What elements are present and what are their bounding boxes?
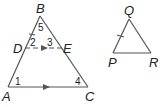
- angle-label-2: 2: [30, 37, 36, 48]
- triangle-pqr: [113, 19, 151, 53]
- vertex-label-d: D: [13, 41, 22, 56]
- parallel-arrow-ac-icon: [43, 84, 50, 90]
- tick-mark-bd: [29, 34, 35, 35]
- vertex-label-a: A: [1, 89, 11, 104]
- geometry-figure: B D E A C 1 2 3 4 5 Q P R: [0, 0, 164, 107]
- vertex-label-p: P: [108, 55, 117, 70]
- vertex-label-c: C: [85, 89, 95, 104]
- angle-label-5: 5: [38, 22, 44, 33]
- vertex-label-b: B: [36, 1, 45, 16]
- vertex-label-r: R: [149, 55, 158, 70]
- vertex-label-q: Q: [124, 3, 134, 18]
- angle-label-4: 4: [75, 76, 81, 87]
- angle-label-1: 1: [15, 76, 21, 87]
- angle-label-3: 3: [47, 37, 53, 48]
- vertex-label-e: E: [63, 41, 72, 56]
- side-qr: [129, 19, 151, 53]
